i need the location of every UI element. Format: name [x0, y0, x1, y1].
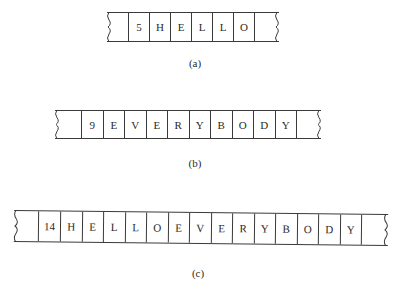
char-cell: O: [297, 214, 319, 244]
char-cell: H: [61, 211, 83, 241]
char-cell: E: [104, 111, 126, 138]
char-cell: Y: [190, 111, 212, 138]
char-cell: E: [168, 213, 190, 243]
string-tape-a: 5 H E L L O: [107, 12, 279, 42]
empty-cell: [255, 13, 273, 41]
wavy-break-left-icon: [107, 13, 113, 41]
char-cell: L: [125, 212, 147, 242]
caption-a: (a): [175, 57, 215, 69]
empty-cell: [362, 215, 382, 245]
empty-cell: [113, 13, 129, 41]
char-cell: O: [147, 212, 169, 242]
char-cell: E: [147, 111, 169, 138]
char-cell: E: [211, 213, 233, 243]
char-cell: O: [234, 13, 255, 41]
char-cell: O: [233, 111, 255, 138]
char-cell: E: [171, 13, 192, 41]
length-cell: 14: [39, 211, 61, 241]
char-cell: Y: [276, 111, 298, 138]
char-cell: L: [104, 212, 126, 242]
string-tape-b: 9 E V E R Y B O D Y: [55, 110, 321, 139]
string-tape-c: 14 H E L L O E V E R Y B O D Y: [14, 210, 388, 246]
caption-b: (b): [175, 157, 215, 169]
char-cell: L: [192, 13, 213, 41]
char-cell: V: [125, 111, 147, 138]
char-cell: V: [190, 213, 212, 243]
wavy-break-right-icon: [273, 13, 279, 41]
char-cell: D: [319, 214, 341, 244]
char-cell: L: [213, 13, 234, 41]
char-cell: H: [150, 13, 171, 41]
length-cell: 9: [82, 111, 104, 138]
wavy-break-left-icon: [14, 211, 20, 241]
length-cell: 5: [129, 13, 150, 41]
char-cell: B: [211, 111, 233, 138]
caption-c: (c): [178, 267, 218, 279]
char-cell: B: [276, 214, 298, 244]
char-cell: R: [233, 213, 255, 243]
wavy-break-right-icon: [315, 111, 321, 138]
char-cell: D: [254, 111, 276, 138]
wavy-break-right-icon: [382, 215, 388, 245]
empty-cell: [297, 111, 315, 138]
char-cell: Y: [254, 214, 276, 244]
empty-cell: [20, 211, 39, 241]
char-cell: R: [168, 111, 190, 138]
wavy-break-left-icon: [55, 111, 61, 138]
char-cell: E: [82, 212, 104, 242]
char-cell: Y: [340, 214, 362, 244]
empty-cell: [61, 111, 82, 138]
